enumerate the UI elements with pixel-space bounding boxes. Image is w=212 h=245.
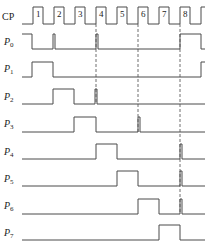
signal-label: P5 [3, 173, 14, 186]
signal-waveform [22, 171, 205, 186]
signal-p5: P5 [3, 171, 205, 186]
signal-p1: P1 [3, 62, 205, 77]
pulse-number: 2 [57, 9, 62, 19]
signal-waveform [22, 62, 205, 77]
signal-waveform [22, 117, 205, 132]
signal-label: P4 [3, 146, 14, 159]
pulse-number: 8 [183, 9, 188, 19]
pulse-number: 1 [36, 9, 41, 19]
clock-signal: CP 12345678 [2, 7, 205, 24]
timing-diagram: CP 12345678 P0P1P2P3P4P5P6P7 [0, 0, 212, 245]
signal-waveform [22, 89, 205, 104]
clock-waveform [22, 7, 205, 24]
signal-label: P7 [3, 227, 14, 240]
signal-label: P1 [3, 63, 14, 76]
pulse-number: 4 [99, 9, 104, 19]
clock-pulse-numbers: 12345678 [36, 9, 188, 19]
pulse-number: 3 [78, 9, 83, 19]
signal-waveform [22, 225, 205, 240]
signal-label: P3 [3, 118, 14, 131]
signal-waveform [22, 144, 205, 159]
signal-p7: P7 [3, 225, 205, 240]
signal-p0: P0 [3, 34, 205, 49]
signal-label: P6 [3, 200, 14, 213]
signal-p6: P6 [3, 199, 205, 214]
signal-waveform [22, 34, 205, 49]
output-signals: P0P1P2P3P4P5P6P7 [3, 34, 205, 240]
signal-p3: P3 [3, 117, 205, 132]
pulse-number: 6 [141, 9, 146, 19]
signal-p4: P4 [3, 144, 205, 159]
clock-label: CP [2, 11, 15, 22]
signal-label: P0 [3, 36, 14, 49]
signal-label: P2 [3, 91, 14, 104]
pulse-number: 5 [120, 9, 125, 19]
signal-p2: P2 [3, 89, 205, 104]
signal-waveform [22, 199, 205, 214]
pulse-number: 7 [162, 9, 167, 19]
